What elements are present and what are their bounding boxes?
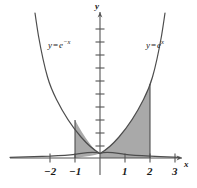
shaded-region-right	[100, 84, 150, 158]
exponential-curves-figure: y x −2 −1 1 2 3 y=e−x y=ex	[0, 0, 197, 188]
x-tick-label-minus-2: −2	[44, 166, 56, 177]
curve-label-left-exponent: −x	[63, 38, 70, 45]
x-tick-label-minus-1: −1	[69, 166, 81, 177]
curve-label-exp-minus-x: y=e−x	[48, 41, 70, 50]
x-axis-label: x	[184, 160, 189, 169]
curve-exp-minus-x	[35, 13, 180, 157]
y-axis-label: y	[95, 2, 99, 11]
x-tick-label-1: 1	[122, 166, 128, 177]
plot-canvas	[0, 0, 197, 188]
curve-label-exp-x: y=ex	[146, 41, 164, 50]
x-tick-label-3: 3	[172, 166, 178, 177]
x-tick-label-2: 2	[147, 166, 153, 177]
curve-label-right-exponent: x	[161, 38, 164, 45]
